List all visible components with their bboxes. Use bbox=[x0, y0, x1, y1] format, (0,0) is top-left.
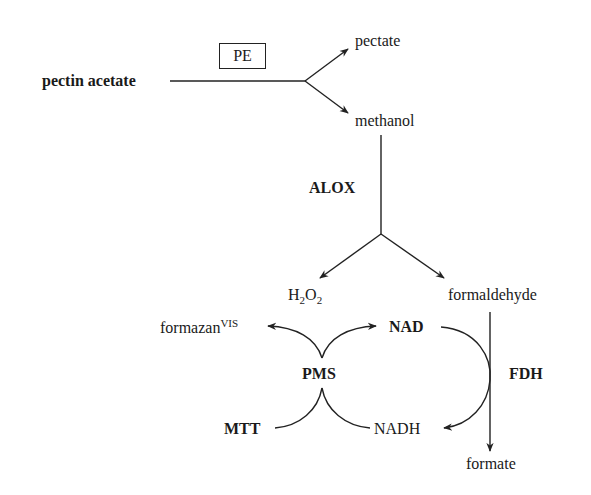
arc-nadh-to-pms bbox=[322, 388, 370, 428]
node-pms: PMS bbox=[302, 366, 336, 382]
node-pectin-acetate: pectin acetate bbox=[42, 73, 136, 89]
node-formate: formate bbox=[466, 456, 516, 472]
arrow-to-nad bbox=[322, 326, 376, 358]
node-methanol: methanol bbox=[355, 113, 415, 129]
enzyme-pe-box: PE bbox=[219, 43, 266, 69]
arrow-to-h2o2 bbox=[320, 234, 381, 278]
enzyme-fdh: FDH bbox=[509, 366, 543, 382]
arrow-to-formazan bbox=[268, 326, 322, 358]
node-mtt: MTT bbox=[224, 421, 260, 437]
arrow-to-formaldehyde bbox=[381, 234, 444, 278]
enzyme-alox: ALOX bbox=[309, 180, 355, 196]
arrow-nad-to-nadh bbox=[441, 327, 490, 428]
arc-mtt-to-pms bbox=[275, 388, 322, 428]
arrow-to-methanol bbox=[305, 81, 348, 113]
node-nadh: NADH bbox=[374, 421, 420, 437]
enzyme-pe-label: PE bbox=[233, 47, 252, 65]
arrow-to-pectate bbox=[305, 49, 348, 81]
node-h2o2: H2O2 bbox=[288, 287, 322, 303]
pathway-diagram: pectin acetate PE pectate methanol ALOX … bbox=[0, 0, 591, 495]
node-formaldehyde: formaldehyde bbox=[448, 287, 537, 303]
node-nad: NAD bbox=[389, 319, 424, 335]
node-formazan: formazanVIS bbox=[160, 320, 238, 336]
node-pectate: pectate bbox=[355, 33, 400, 49]
